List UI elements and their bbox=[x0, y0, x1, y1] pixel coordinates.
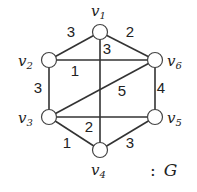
edge-weight-v2-v3: 3 bbox=[34, 79, 42, 96]
vertex-label-v4: v4 bbox=[91, 161, 106, 180]
graph-name-label: :G bbox=[150, 160, 177, 180]
graph-name: G bbox=[164, 160, 178, 180]
edge-weight-v3-v5: 2 bbox=[85, 118, 93, 135]
vertex-v6 bbox=[148, 53, 163, 68]
vertex-label-v1: v1 bbox=[91, 2, 106, 21]
vertex-label-v3: v3 bbox=[18, 109, 33, 128]
edge-weight-v3-v4: 1 bbox=[63, 134, 71, 151]
edge-weight-v3-v6: 5 bbox=[118, 82, 126, 99]
vertex-v1 bbox=[93, 25, 108, 40]
vertex-v5 bbox=[148, 110, 163, 125]
edge-weight-v2-v6: 1 bbox=[71, 62, 79, 79]
vertex-label-v5: v5 bbox=[167, 109, 182, 128]
weighted-graph-diagram: 3231354213 v1v2v3v4v5v6 :G bbox=[0, 0, 197, 192]
vertex-v4 bbox=[93, 143, 108, 158]
vertex-label-v2: v2 bbox=[18, 52, 33, 71]
edge-weight-v1-v6: 2 bbox=[126, 23, 134, 40]
edge-weight-v1-v4: 3 bbox=[103, 40, 111, 57]
edge-weight-v6-v5: 4 bbox=[157, 79, 165, 96]
edge-weight-v1-v2: 3 bbox=[67, 23, 75, 40]
graph-name-colon: : bbox=[150, 160, 156, 180]
vertex-v3 bbox=[42, 110, 57, 125]
vertex-label-v6: v6 bbox=[167, 52, 182, 71]
edge-weight-v4-v5: 3 bbox=[126, 134, 134, 151]
edge-v3-v6 bbox=[49, 60, 155, 117]
vertex-v2 bbox=[42, 53, 57, 68]
